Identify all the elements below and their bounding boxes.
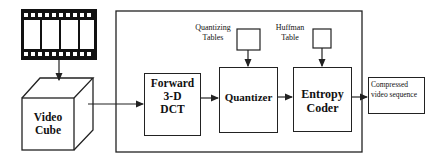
video-cube-label: Video Cube [22, 111, 74, 137]
htable-line2: Table [268, 33, 312, 43]
compressed-output-block: Compressed video sequence [368, 77, 425, 114]
entropy-label-line1: Entropy [294, 88, 351, 102]
quantizing-table-box [237, 29, 260, 50]
forward-dct-block: Forward 3-D DCT [144, 73, 201, 136]
dct-label-line3: DCT [145, 103, 200, 116]
quantizing-tables-label: Quantizing Tables [187, 23, 239, 43]
cube-label-line1: Video [22, 111, 74, 124]
output-label-line1: Compressed [371, 80, 417, 90]
entropy-label-line2: Coder [294, 102, 351, 116]
entropy-coder-block: Entropy Coder [293, 67, 352, 132]
dct-label-line1: Forward [145, 77, 200, 90]
quantizer-block: Quantizer [219, 67, 278, 133]
huffman-table-box [313, 29, 331, 48]
cube-label-line2: Cube [22, 124, 74, 137]
qtable-line2: Tables [187, 33, 239, 43]
htable-line1: Huffman [268, 23, 312, 33]
dct-label-line2: 3-D [145, 90, 200, 103]
huffman-table-label: Huffman Table [268, 23, 312, 43]
output-label-line2: video sequence [371, 90, 417, 100]
qtable-line1: Quantizing [187, 23, 239, 33]
quantizer-label: Quantizer [220, 91, 277, 104]
film-strip-icon [21, 9, 97, 60]
